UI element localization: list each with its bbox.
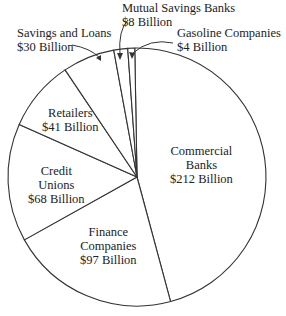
label-savings-and-loans: Savings and Loans $30 Billion <box>17 26 111 54</box>
label-retailers: Retailers $41 Billion <box>42 106 99 134</box>
label-finance-companies: Finance Companies $97 Billion <box>80 225 137 267</box>
label-commercial-banks: Commercial Banks $212 Billion <box>170 144 233 186</box>
label-mutual-savings-banks: Mutual Savings Banks $8 Billion <box>122 1 235 29</box>
label-credit-unions: Credit Unions $68 Billion <box>28 164 85 206</box>
label-gasoline-companies: Gasoline Companies $4 Billion <box>177 26 281 54</box>
